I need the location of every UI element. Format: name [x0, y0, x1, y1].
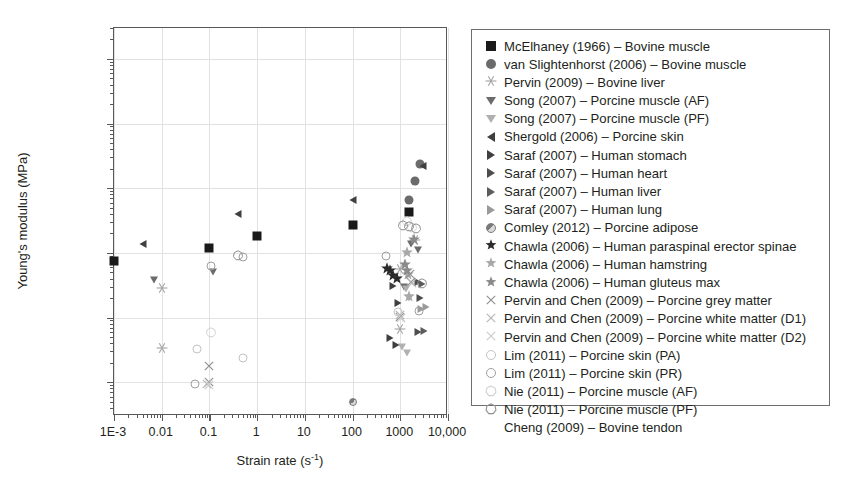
legend-item[interactable]: Nie (2011) – Porcine muscle (PF)	[472, 401, 829, 419]
legend-item-label: Lim (2011) – Porcine skin (PA)	[504, 349, 680, 362]
y-tick-minor	[110, 104, 114, 105]
data-point	[386, 334, 393, 342]
heptagon-open-icon	[482, 401, 499, 418]
y-tick-minor	[110, 198, 114, 199]
scatter-plot-figure: 1E-30.010.1110100100010,000 0.010.111010…	[0, 0, 465, 482]
legend-item[interactable]: Pervin and Chen (2009) – Porcine white m…	[472, 328, 829, 346]
x-tick-minor	[375, 414, 376, 418]
legend-item[interactable]: Lim (2011) – Porcine skin (PA)	[472, 346, 829, 364]
x-tick-minor	[443, 414, 444, 418]
triangle-down-icon	[482, 110, 499, 127]
data-point	[405, 274, 417, 292]
gridline-horizontal	[114, 124, 446, 125]
legend-item[interactable]: Song (2007) – Porcine muscle (PF)	[472, 110, 829, 128]
legend-item[interactable]: Comley (2012) – Porcine adipose	[472, 219, 829, 237]
y-tick-minor	[110, 287, 114, 288]
data-point	[416, 159, 425, 168]
x-tick-minor	[157, 414, 158, 418]
legend-item-label: Nie (2011) – Porcine muscle (AF)	[504, 385, 697, 398]
legend-item-label: Pervin and Chen (2009) – Porcine white m…	[504, 331, 806, 344]
circle-open-icon	[482, 365, 499, 382]
y-tick-minor	[110, 337, 114, 338]
x-tick-minor	[253, 414, 254, 418]
legend-item[interactable]: Saraf (2007) – Human stomach	[472, 146, 829, 164]
x-tick-minor	[184, 414, 185, 418]
x-tick-minor	[247, 414, 248, 418]
legend-item[interactable]: Pervin (2009) – Bovine liver	[472, 73, 829, 91]
data-point	[404, 218, 415, 236]
legend-item-label: Lim (2011) – Porcine skin (PR)	[504, 367, 682, 380]
legend-item[interactable]: Nie (2011) – Porcine muscle (AF)	[472, 383, 829, 401]
x-tick-minor	[386, 414, 387, 418]
x-tick-major	[353, 414, 354, 421]
legend-item[interactable]: Saraf (2007) – Human heart	[472, 164, 829, 182]
y-tick-minor	[110, 157, 114, 158]
data-point	[193, 344, 202, 353]
legend-item[interactable]: Song (2007) – Porcine muscle (AF)	[472, 92, 829, 110]
legend-item-label: Pervin (2009) – Bovine liver	[504, 76, 665, 89]
data-point	[404, 266, 416, 284]
legend-item[interactable]: Shergold (2006) – Porcine skin	[472, 128, 829, 146]
data-point	[417, 305, 424, 313]
y-tick-major	[107, 318, 114, 319]
legend-item[interactable]: Chawla (2006) – Human paraspinal erector…	[472, 237, 829, 255]
x-tick-label: 1E-3	[100, 425, 126, 439]
data-point	[401, 245, 414, 263]
heptagon-open-icon	[482, 383, 499, 400]
y-tick-minor	[110, 272, 114, 273]
data-point	[404, 196, 413, 205]
legend-item-label: Nie (2011) – Porcine muscle (PF)	[504, 403, 697, 416]
x-tick-minor	[348, 414, 349, 418]
x-tick-minor	[232, 414, 233, 418]
legend-item-label: McElhaney (1966) – Bovine muscle	[504, 40, 710, 53]
data-point	[238, 353, 247, 362]
legend-item-label: Song (2007) – Porcine muscle (PF)	[504, 112, 709, 125]
y-tick-minor	[110, 328, 114, 329]
y-tick-major	[107, 124, 114, 125]
x-tick-minor	[176, 414, 177, 418]
legend-item[interactable]: Cheng (2009) – Bovine tendon	[472, 419, 829, 437]
data-point	[401, 213, 412, 231]
x-tick-minor	[423, 414, 424, 418]
data-point	[384, 263, 397, 281]
data-point	[402, 285, 410, 292]
x-tick-major	[400, 414, 401, 421]
legend-item-label: Saraf (2007) – Human liver	[504, 185, 661, 198]
legend-item[interactable]: Pervin and Chen (2009) – Porcine white m…	[472, 310, 829, 328]
legend-item[interactable]: McElhaney (1966) – Bovine muscle	[472, 37, 829, 55]
x-tick-minor	[300, 414, 301, 418]
x-tick-minor	[128, 414, 129, 418]
legend-item[interactable]: Saraf (2007) – Human lung	[472, 201, 829, 219]
y-tick-minor	[110, 169, 114, 170]
data-point	[201, 376, 213, 394]
star-icon	[482, 238, 499, 255]
legend-item-label: Chawla (2006) – Human paraspinal erector…	[504, 240, 797, 253]
legend-item-label: Chawla (2006) – Human hamstring	[504, 258, 707, 271]
x-tick-minor	[319, 414, 320, 418]
y-tick-minor	[110, 214, 114, 215]
triangle-down-icon	[482, 92, 499, 109]
data-point	[390, 271, 403, 289]
y-tick-minor	[110, 298, 114, 299]
data-point	[206, 324, 217, 342]
gridline-vertical	[353, 28, 354, 414]
circle-half-icon	[482, 219, 499, 236]
legend-item[interactable]: Chawla (2006) – Human hamstring	[472, 255, 829, 273]
gridline-vertical	[257, 28, 258, 414]
y-tick-minor	[110, 408, 114, 409]
data-point	[139, 240, 146, 248]
square-filled-icon	[482, 38, 499, 55]
x-tick-minor	[381, 414, 382, 418]
x-tick-minor	[238, 414, 239, 418]
legend-item[interactable]: Pervin and Chen (2009) – Porcine grey ma…	[472, 292, 829, 310]
legend-item[interactable]: Chawla (2006) – Human gluteus max	[472, 273, 829, 291]
legend-item[interactable]: van Slightenhorst (2006) – Bovine muscle	[472, 55, 829, 73]
gridline-vertical	[114, 28, 115, 414]
figure-root: 1E-30.010.1110100100010,000 0.010.111010…	[0, 0, 865, 482]
x-tick-major	[162, 414, 163, 421]
x-tick-minor	[199, 414, 200, 418]
legend-item[interactable]: Saraf (2007) – Human liver	[472, 183, 829, 201]
legend-item[interactable]: Lim (2011) – Porcine skin (PR)	[472, 364, 829, 382]
y-tick-minor	[110, 130, 114, 131]
y-tick-minor	[110, 78, 114, 79]
